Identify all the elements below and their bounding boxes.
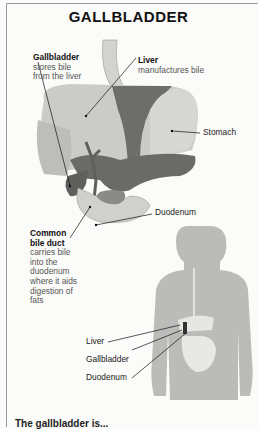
body-label-gallbladder: Gallbladder bbox=[86, 355, 129, 365]
pancreas-shape bbox=[70, 154, 195, 192]
body-label-duodenum: Duodenum bbox=[86, 373, 127, 383]
label-stomach: Stomach bbox=[203, 128, 236, 138]
esophagus-shape bbox=[102, 40, 124, 88]
footer-text: The gallbladder is... bbox=[15, 418, 108, 429]
label-duodenum: Duodenum bbox=[155, 208, 196, 218]
silhouette-gallbladder bbox=[183, 322, 187, 334]
body-label-liver: Liver bbox=[86, 337, 104, 347]
label-common-bile-duct: Common bile duct carries bile into the d… bbox=[30, 229, 77, 306]
label-gallbladder: Gallbladder stores bile from the liver bbox=[33, 53, 81, 82]
body-silhouette bbox=[151, 226, 252, 400]
label-liver: Liver manufactures bile bbox=[138, 56, 204, 75]
